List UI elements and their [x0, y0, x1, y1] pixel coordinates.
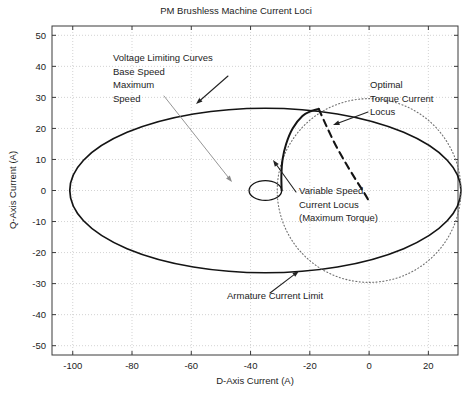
y-tick-label: 10 [35, 154, 46, 165]
y-tick-label: -50 [32, 340, 46, 351]
x-tick-label: -80 [125, 360, 139, 371]
x-tick-label: 20 [423, 360, 434, 371]
annotation-line: Maximum [113, 79, 154, 90]
y-tick-label: -20 [32, 247, 46, 258]
chart-title: PM Brushless Machine Current Loci [160, 5, 312, 16]
figure-container: PM Brushless Machine Current Loci -100-8… [0, 0, 473, 399]
annotation-line: (Maximum Torque) [299, 212, 378, 223]
y-tick-label: -30 [32, 278, 46, 289]
annotation-line: Optimal [370, 79, 403, 90]
current-loci-chart: PM Brushless Machine Current Loci -100-8… [0, 0, 473, 399]
annotation-line: Locus [370, 106, 396, 117]
x-tick-label: -20 [303, 360, 317, 371]
annotation-line: Armature Current Limit [227, 290, 323, 301]
x-tick-label: -40 [244, 360, 258, 371]
annotation-line: Current Locus [299, 199, 359, 210]
y-tick-label: 20 [35, 123, 46, 134]
x-tick-label: 0 [366, 360, 371, 371]
x-axis-label: D-Axis Current (A) [216, 375, 294, 386]
y-axis-label: Q-Axis Current (A) [7, 151, 18, 229]
annotation-line: Torque Current [370, 93, 434, 104]
annotation-line: Variable Speed [299, 185, 363, 196]
x-tick-label: -100 [63, 360, 82, 371]
y-tick-label: -40 [32, 309, 46, 320]
y-tick-label: -10 [32, 216, 46, 227]
annotation-line: Voltage Limiting Curves [113, 52, 213, 63]
y-tick-label: 40 [35, 61, 46, 72]
annotation-line: Base Speed [113, 66, 165, 77]
y-tick-label: 30 [35, 92, 46, 103]
annotation-line: Speed [113, 93, 140, 104]
x-tick-label: -60 [184, 360, 198, 371]
y-tick-label: 0 [41, 185, 46, 196]
annotation-armature-current-limit: Armature Current Limit [227, 290, 323, 301]
y-tick-label: 50 [35, 30, 46, 41]
